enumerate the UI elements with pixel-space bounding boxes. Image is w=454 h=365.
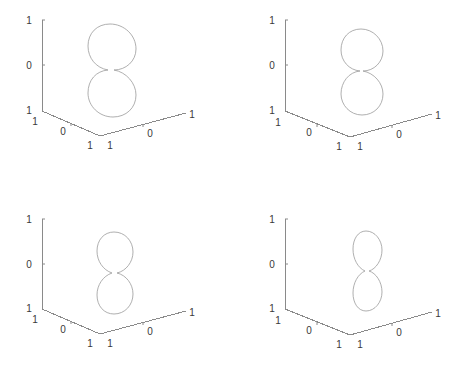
x-ticklabel-end-4: 1 — [435, 308, 441, 319]
figure-canvas: 1 0 1 1 0 1 1 0 1 1 0 1 1 0 1 1 — [0, 0, 454, 365]
z-ticklabel-bottom-1: 1 — [26, 105, 32, 116]
z-ticklabel-top-3: 1 — [26, 214, 32, 225]
x-ticklabel-end-1: 1 — [189, 109, 195, 120]
lemniscate-curve-2 — [341, 29, 383, 115]
x-ticklabel-start-3: 1 — [107, 338, 113, 349]
y-ticklabel-end-4: 1 — [336, 339, 342, 350]
z-ticklabel-bottom-4: 1 — [269, 303, 275, 314]
y-ticklabel-mid-1: 0 — [60, 126, 66, 137]
y-ticklabel-end-3: 1 — [87, 338, 93, 349]
z-ticklabel-mid-1: 0 — [26, 60, 32, 71]
lemniscate-curve-1 — [88, 24, 136, 117]
z-ticklabel-top-2: 1 — [269, 15, 275, 26]
lemniscate-curve-3 — [97, 232, 133, 314]
x-ticklabel-mid-2: 0 — [396, 129, 402, 140]
x-axis-line-2 — [350, 114, 432, 137]
plot-panel-1[interactable]: 1 0 1 1 0 1 1 0 1 — [0, 0, 227, 182]
y-ticklabel-mid-4: 0 — [306, 325, 312, 336]
z-ticklabel-mid-2: 0 — [269, 60, 275, 71]
x-ticklabel-start-4: 1 — [357, 339, 363, 350]
z-ticklabel-top-4: 1 — [269, 214, 275, 225]
y-ticklabel-end-2: 1 — [336, 141, 342, 152]
y-ticklabel-start-2: 1 — [275, 117, 281, 128]
x-ticklabel-start-1: 1 — [107, 140, 113, 151]
x-ticklabel-start-2: 1 — [357, 141, 363, 152]
x-ticklabel-end-2: 1 — [435, 110, 441, 121]
lemniscate-curve-4 — [353, 231, 382, 311]
z-ticklabel-bottom-2: 1 — [269, 105, 275, 116]
y-ticklabel-end-1: 1 — [87, 140, 93, 151]
z-ticklabel-mid-4: 0 — [269, 259, 275, 270]
z-ticklabel-mid-3: 0 — [26, 259, 32, 270]
y-ticklabel-start-4: 1 — [275, 315, 281, 326]
y-ticklabel-start-1: 1 — [32, 116, 38, 127]
y-ticklabel-start-3: 1 — [32, 314, 38, 325]
plot-panel-4[interactable]: 1 0 1 1 0 1 1 0 1 — [227, 183, 454, 365]
x-ticklabel-end-3: 1 — [189, 307, 195, 318]
x-ticklabel-mid-3: 0 — [147, 326, 153, 337]
x-ticklabel-mid-4: 0 — [396, 327, 402, 338]
plot-panel-2[interactable]: 1 0 1 1 0 1 1 0 1 — [227, 0, 454, 182]
y-ticklabel-mid-2: 0 — [306, 127, 312, 138]
z-ticklabel-bottom-3: 1 — [26, 303, 32, 314]
y-ticklabel-mid-3: 0 — [60, 324, 66, 335]
x-axis-line-4 — [350, 312, 432, 335]
z-ticklabel-top-1: 1 — [26, 15, 32, 26]
x-ticklabel-mid-1: 0 — [147, 128, 153, 139]
plot-panel-3[interactable]: 1 0 1 1 0 1 1 0 1 — [0, 183, 227, 365]
